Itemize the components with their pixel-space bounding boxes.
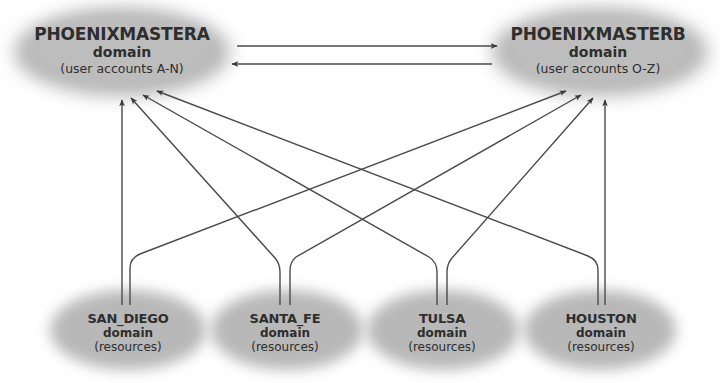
domain-type-label: domain [498, 44, 698, 61]
domain-name: TULSA [372, 311, 512, 326]
domain-type-label: domain [531, 326, 671, 340]
domain-description: (resources) [215, 340, 355, 355]
node-houston: HOUSTON domain (resources) [531, 311, 671, 355]
domain-name: PHOENIXMASTERB [498, 25, 698, 44]
domain-description: (resources) [58, 340, 198, 355]
node-phoenixmastera: PHOENIXMASTERA domain (user accounts A-N… [22, 25, 222, 77]
domain-description: (user accounts O-Z) [498, 61, 698, 77]
arrow-santa-fe-to-b [290, 95, 581, 305]
domain-name: PHOENIXMASTERA [22, 25, 222, 44]
domain-type-label: domain [372, 326, 512, 340]
arrow-san-diego-to-b [130, 91, 566, 305]
domain-name: SANTA_FE [215, 311, 355, 326]
node-santa-fe: SANTA_FE domain (resources) [215, 311, 355, 355]
domain-description: (resources) [372, 340, 512, 355]
node-tulsa: TULSA domain (resources) [372, 311, 512, 355]
node-san-diego: SAN_DIEGO domain (resources) [58, 311, 198, 355]
node-phoenixmasterb: PHOENIXMASTERB domain (user accounts O-Z… [498, 25, 698, 77]
domain-description: (user accounts A-N) [22, 61, 222, 77]
domain-name: HOUSTON [531, 311, 671, 326]
domain-type-label: domain [22, 44, 222, 61]
domain-name: SAN_DIEGO [58, 311, 198, 326]
domain-type-label: domain [58, 326, 198, 340]
domain-description: (resources) [531, 340, 671, 355]
domain-type-label: domain [215, 326, 355, 340]
